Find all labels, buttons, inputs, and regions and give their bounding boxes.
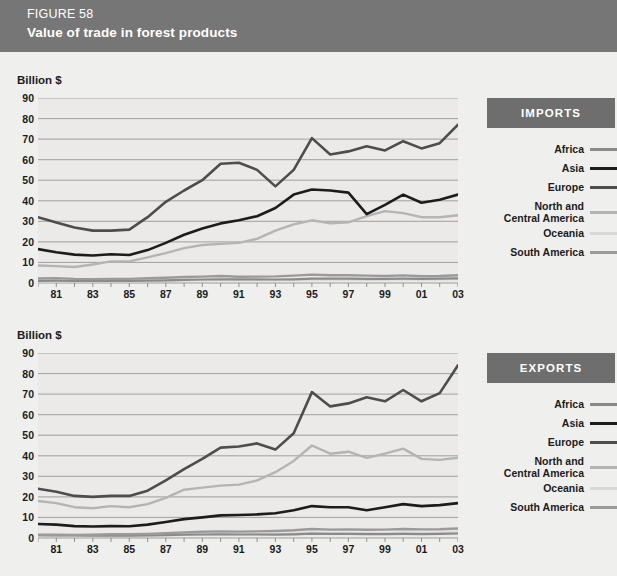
- y-axis-title: Billion $: [17, 329, 62, 341]
- figure-header: FIGURE 58 Value of trade in forest produ…: [0, 0, 617, 52]
- y-tick-label: 10: [22, 256, 34, 268]
- x-tick-label: 95: [306, 288, 318, 300]
- legend-swatch-icon: [590, 441, 617, 444]
- legend-label: North and Central America: [504, 456, 584, 479]
- x-tick-label: 87: [160, 288, 172, 300]
- legend-label: Asia: [562, 163, 584, 175]
- plot-area-exports: [38, 353, 458, 538]
- figure-number: FIGURE 58: [27, 7, 93, 21]
- legend-label: South America: [510, 247, 584, 259]
- x-tick-label: 95: [306, 543, 318, 555]
- y-tick-label: 40: [22, 450, 34, 462]
- y-tick-label: 0: [28, 277, 34, 289]
- legend-swatch-icon: [590, 251, 617, 254]
- y-tick-label: 70: [22, 133, 34, 145]
- y-tick-label: 90: [22, 347, 34, 359]
- legend-swatch-icon: [590, 148, 617, 151]
- x-tick-label: 83: [87, 543, 99, 555]
- y-axis-labels-imports: 0102030405060708090: [0, 98, 34, 283]
- y-tick-label: 60: [22, 154, 34, 166]
- y-tick-label: 10: [22, 511, 34, 523]
- legend-item[interactable]: Africa: [470, 144, 617, 156]
- x-tick-label: 85: [123, 288, 135, 300]
- legend-label: South America: [510, 502, 584, 514]
- legend-item[interactable]: North and Central America: [470, 456, 617, 479]
- y-tick-label: 30: [22, 215, 34, 227]
- legend-swatch-icon: [590, 506, 617, 509]
- legend-label: Africa: [554, 399, 584, 411]
- legend-item[interactable]: South America: [470, 247, 617, 259]
- x-tick-label: 03: [452, 288, 464, 300]
- legend-label: Asia: [562, 418, 584, 430]
- legend-label: Oceania: [543, 228, 584, 240]
- x-tick-label: 99: [379, 543, 391, 555]
- x-tick-label: 03: [452, 543, 464, 555]
- legend-swatch-icon: [590, 466, 617, 469]
- x-axis-labels-exports: 818385878991939597990103: [38, 543, 458, 561]
- x-axis-labels-imports: 818385878991939597990103: [38, 288, 458, 306]
- x-tick-label: 81: [50, 543, 62, 555]
- legend-item[interactable]: Europe: [470, 437, 617, 449]
- y-tick-label: 50: [22, 429, 34, 441]
- badge-imports: IMPORTS: [487, 98, 615, 128]
- x-tick-label: 91: [233, 288, 245, 300]
- x-tick-label: 89: [197, 288, 209, 300]
- legend-swatch-icon: [590, 232, 617, 235]
- legend-label: Africa: [554, 144, 584, 156]
- y-tick-label: 0: [28, 532, 34, 544]
- x-tick-label: 87: [160, 543, 172, 555]
- x-tick-label: 99: [379, 288, 391, 300]
- x-tick-label: 97: [343, 543, 355, 555]
- legend-label: Europe: [548, 437, 584, 449]
- x-tick-label: 01: [416, 543, 428, 555]
- legend-swatch-icon: [590, 211, 617, 214]
- x-tick-label: 97: [343, 288, 355, 300]
- legend-label: North and Central America: [504, 201, 584, 224]
- x-tick-label: 93: [270, 543, 282, 555]
- x-tick-label: 81: [50, 288, 62, 300]
- legend-item[interactable]: Oceania: [470, 483, 617, 495]
- y-tick-label: 50: [22, 174, 34, 186]
- badge-exports: EXPORTS: [487, 353, 615, 383]
- y-tick-label: 80: [22, 368, 34, 380]
- legend-label: Oceania: [543, 483, 584, 495]
- y-tick-label: 20: [22, 236, 34, 248]
- y-axis-labels-exports: 0102030405060708090: [0, 353, 34, 538]
- legend-item[interactable]: Asia: [470, 418, 617, 430]
- legend-item[interactable]: North and Central America: [470, 201, 617, 224]
- legend-item[interactable]: Europe: [470, 182, 617, 194]
- plot-area-imports: [38, 98, 458, 283]
- y-tick-label: 90: [22, 92, 34, 104]
- y-tick-label: 40: [22, 195, 34, 207]
- legend-swatch-icon: [590, 422, 617, 425]
- legend-item[interactable]: Oceania: [470, 228, 617, 240]
- y-tick-label: 80: [22, 113, 34, 125]
- figure-title: Value of trade in forest products: [27, 25, 237, 40]
- legend-swatch-icon: [590, 167, 617, 170]
- x-tick-label: 01: [416, 288, 428, 300]
- x-tick-label: 89: [197, 543, 209, 555]
- x-tick-label: 85: [123, 543, 135, 555]
- x-tick-label: 83: [87, 288, 99, 300]
- legend-item[interactable]: Asia: [470, 163, 617, 175]
- y-tick-label: 60: [22, 409, 34, 421]
- y-tick-label: 70: [22, 388, 34, 400]
- chart-panel-imports: Billion $ 0102030405060708090 8183858789…: [0, 52, 617, 307]
- legend-label: Europe: [548, 182, 584, 194]
- y-tick-label: 30: [22, 470, 34, 482]
- y-axis-title: Billion $: [17, 74, 62, 86]
- legend-item[interactable]: South America: [470, 502, 617, 514]
- legend-swatch-icon: [590, 403, 617, 406]
- chart-panel-exports: Billion $ 0102030405060708090 8183858789…: [0, 307, 617, 576]
- y-tick-label: 20: [22, 491, 34, 503]
- x-tick-label: 91: [233, 543, 245, 555]
- legend-swatch-icon: [590, 487, 617, 490]
- legend-swatch-icon: [590, 186, 617, 189]
- legend-item[interactable]: Africa: [470, 399, 617, 411]
- x-tick-label: 93: [270, 288, 282, 300]
